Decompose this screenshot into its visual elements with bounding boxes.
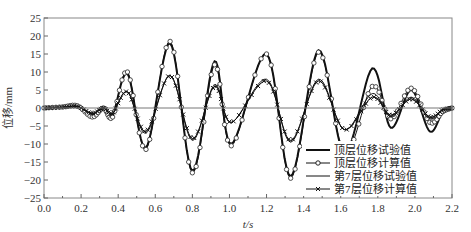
y-tick-label: 15 <box>30 48 42 60</box>
y-tick-label: −5 <box>29 120 41 132</box>
x-tick-label: 1.8 <box>371 202 385 214</box>
legend-item: 第7层位移计算值 <box>334 182 417 195</box>
legend-item: 第7层位移试验值 <box>334 169 417 182</box>
x-tick-label: 1.2 <box>260 202 274 214</box>
legend-item: 顶层位移试验值 <box>334 143 411 156</box>
legend-item: 顶层位移计算值 <box>334 156 411 169</box>
x-axis: 0.00.20.40.60.81.01.21.41.61.82.02.2 <box>37 194 459 214</box>
y-tick-label: −15 <box>24 156 42 168</box>
x-axis-label: t/s <box>243 218 253 230</box>
y-tick-label: 5 <box>36 84 42 96</box>
y-tick-label: 10 <box>30 66 42 78</box>
y-tick-label: 0 <box>36 102 42 114</box>
x-tick-label: 0.6 <box>148 202 162 214</box>
y-tick-label: −10 <box>24 138 42 150</box>
y-axis-label: 位移/mm <box>1 86 14 129</box>
x-tick-label: 1.0 <box>223 202 237 214</box>
x-tick-label: 2.2 <box>445 202 459 214</box>
x-tick-label: 1.4 <box>297 202 311 214</box>
y-tick-label: −20 <box>24 174 42 186</box>
x-tick-label: 0.4 <box>111 202 125 214</box>
y-tick-label: 20 <box>30 30 42 42</box>
x-tick-label: 2.0 <box>408 202 422 214</box>
x-tick-label: 0.2 <box>74 202 88 214</box>
x-tick-label: 1.6 <box>334 202 348 214</box>
x-tick-label: 0.8 <box>185 202 199 214</box>
y-tick-label: 25 <box>30 12 42 24</box>
y-tick-label: −25 <box>24 192 42 204</box>
chart: 0.00.20.40.60.81.01.21.41.61.82.02.2 252… <box>0 0 471 232</box>
legend: 顶层位移试验值顶层位移计算值第7层位移试验值第7层位移计算值 <box>302 141 450 196</box>
